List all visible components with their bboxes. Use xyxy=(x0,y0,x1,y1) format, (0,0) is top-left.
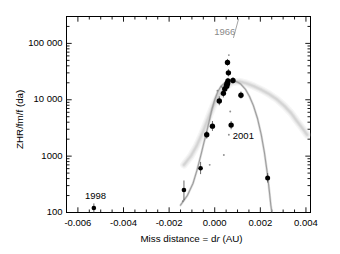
x-tick-label-minus0006: -0.006 xyxy=(52,217,104,228)
annotation-label-2001: 2001 xyxy=(233,130,254,141)
y-tick-label-100: 100 xyxy=(15,206,63,217)
x-tick-label-0000: 0.000 xyxy=(189,217,241,228)
y-tick-label-100000: 100 000 xyxy=(15,37,63,48)
x-axis-title-post: (AU) xyxy=(220,233,243,244)
x-tick-label-minus0004: -0.004 xyxy=(98,217,150,228)
x-tick-label-minus0002: -0.002 xyxy=(143,217,195,228)
y-tick-label-1000: 1000 xyxy=(15,150,63,161)
x-tick-label-0004: 0.004 xyxy=(280,217,332,228)
x-axis-title: Miss distance = dr (AU) xyxy=(127,233,257,244)
y-axis-title: ZHR/fm/f (da) xyxy=(14,89,25,148)
figure-scatter-zhr-vs-miss-distance: 100 000 10 000 1000 100 -0.006 -0.004 -0… xyxy=(0,0,340,254)
x-tick-label-0002: 0.002 xyxy=(234,217,286,228)
annotation-label-1966: 1966 xyxy=(214,26,235,37)
axes-frame xyxy=(67,17,311,213)
annotation-label-1998: 1998 xyxy=(85,190,106,201)
axis-ticks xyxy=(67,17,311,213)
x-axis-title-pre: Miss distance = d xyxy=(140,233,216,244)
